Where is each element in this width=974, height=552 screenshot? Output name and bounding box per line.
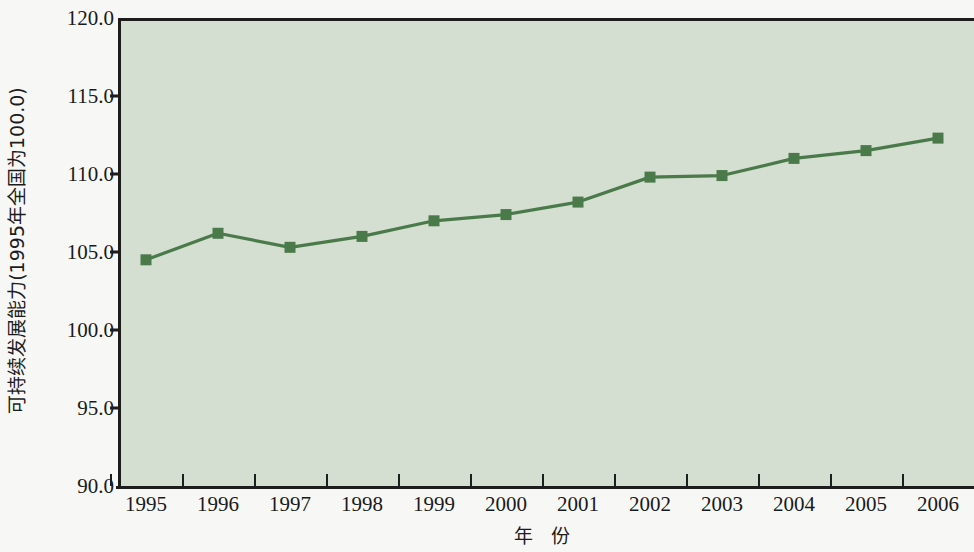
x-tick-mark xyxy=(398,474,400,486)
y-tick-label: 100.0 xyxy=(36,318,114,343)
x-tick-label: 2000 xyxy=(466,492,546,517)
y-axis-title: 可持续发展能力(1995年全国为100.0) xyxy=(0,0,30,500)
y-tick-label: 95.0 xyxy=(36,396,114,421)
y-axis-tick-labels: 120.0115.0110.0105.0100.095.090.0 xyxy=(30,0,114,552)
x-tick-mark xyxy=(902,474,904,486)
y-tick-label: 120.0 xyxy=(36,6,114,31)
x-tick-label: 1999 xyxy=(394,492,474,517)
x-tick-mark xyxy=(182,474,184,486)
y-tick-mark xyxy=(110,95,120,98)
x-tick-label: 2006 xyxy=(898,492,974,517)
y-tick-mark xyxy=(110,251,120,254)
y-tick-mark xyxy=(110,407,120,410)
x-tick-label: 2005 xyxy=(826,492,906,517)
x-tick-label: 1997 xyxy=(250,492,330,517)
x-tick-label: 2003 xyxy=(682,492,762,517)
x-tick-label: 2002 xyxy=(610,492,690,517)
y-tick-label: 105.0 xyxy=(36,240,114,265)
y-axis-title-text: 可持续发展能力(1995年全国为100.0) xyxy=(2,87,29,414)
x-tick-mark xyxy=(614,474,616,486)
x-tick-mark xyxy=(542,474,544,486)
plot-area xyxy=(118,18,974,487)
x-tick-label: 1998 xyxy=(322,492,402,517)
x-tick-mark xyxy=(326,474,328,486)
x-tick-mark xyxy=(254,474,256,486)
y-tick-mark xyxy=(110,329,120,332)
y-tick-label: 115.0 xyxy=(36,84,114,109)
x-tick-label: 2004 xyxy=(754,492,834,517)
x-tick-label: 1995 xyxy=(106,492,186,517)
x-tick-label: 1996 xyxy=(178,492,258,517)
x-tick-mark xyxy=(470,474,472,486)
y-tick-label: 110.0 xyxy=(36,162,114,187)
chart-figure: 可持续发展能力(1995年全国为100.0) 120.0115.0110.010… xyxy=(0,0,974,552)
x-axis-title: 年 份 xyxy=(445,521,645,548)
x-tick-mark xyxy=(686,474,688,486)
x-tick-label: 2001 xyxy=(538,492,618,517)
y-tick-mark xyxy=(110,173,120,176)
y-tick-label: 90.0 xyxy=(36,474,114,499)
x-tick-mark xyxy=(830,474,832,486)
x-axis-line xyxy=(116,486,974,489)
x-tick-mark xyxy=(110,474,112,486)
x-tick-mark xyxy=(758,474,760,486)
